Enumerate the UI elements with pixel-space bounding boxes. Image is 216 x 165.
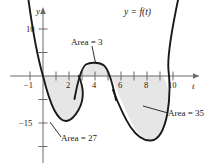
- x-tick-label-2: 2: [66, 81, 70, 90]
- x-axis-name: t: [192, 82, 195, 91]
- x-tick-label-neg1: −1: [24, 81, 33, 90]
- area-under-curve-figure: −1 2 4 6 8 10 10 −15 y t y = f(t) Area =…: [0, 0, 216, 165]
- y-axis-name: y: [36, 7, 40, 16]
- curve-equation-label: y = f(t): [124, 8, 151, 18]
- area-label-left: Area = 27: [61, 134, 97, 143]
- y-tick-label-neg15: −15: [19, 119, 32, 128]
- area-label-middle: Area = 3: [71, 38, 103, 47]
- y-tick-label-10: 10: [26, 25, 35, 34]
- x-tick-label-10: 10: [168, 81, 177, 90]
- x-tick-label-8: 8: [144, 81, 148, 90]
- x-tick-label-6: 6: [118, 81, 122, 90]
- x-tick-label-4: 4: [92, 81, 96, 90]
- shaded-areas: [43, 63, 169, 140]
- area-label-right: Area = 35: [168, 109, 204, 118]
- leader-line-area-27: [50, 122, 61, 137]
- leader-line-area-3: [92, 46, 96, 63]
